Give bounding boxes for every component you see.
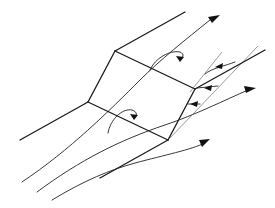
streamlines [22, 15, 256, 200]
streamline-2 [37, 90, 248, 192]
streamline-1 [22, 20, 210, 182]
arrow-head-icon [190, 101, 198, 107]
top-face-front-edge [88, 102, 168, 140]
downstream-floor-edge [100, 140, 168, 178]
arrow-head-icon [176, 56, 184, 62]
back-top-edge [115, 12, 185, 51]
upstream-floor-edge [20, 102, 88, 140]
step-flow-diagram [0, 0, 275, 208]
eddy-upper [150, 52, 183, 70]
arrow-head-icon [208, 15, 220, 23]
streamline-3 [52, 143, 205, 200]
shear-layer [195, 50, 265, 89]
arrow-head-icon [244, 86, 256, 93]
step-left-riser [88, 51, 115, 102]
downstream-riser [168, 89, 195, 140]
arrow-head-icon [199, 139, 210, 147]
arrow-head-icon [130, 114, 138, 120]
arrow-head-icon [204, 85, 212, 91]
profile-guide-2 [170, 46, 258, 138]
step-body [20, 12, 195, 178]
velocity-profile [170, 46, 265, 138]
